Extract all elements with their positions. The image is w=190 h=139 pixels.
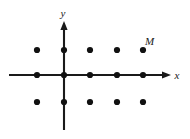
- lattice-dot: [34, 72, 40, 78]
- x-axis-arrowhead-icon: [162, 71, 171, 78]
- point-label-m: M: [144, 35, 155, 47]
- lattice-dot: [140, 99, 146, 105]
- lattice-dot: [34, 99, 40, 105]
- lattice-dot-m: [140, 47, 146, 53]
- figure-canvas: y x M: [0, 0, 190, 139]
- lattice-dot: [87, 99, 93, 105]
- x-axis-label: x: [174, 69, 180, 81]
- lattice-dot: [34, 47, 40, 53]
- coordinate-grid-figure: y x M: [0, 0, 190, 139]
- lattice-dot: [140, 72, 146, 78]
- lattice-dot-origin: [61, 72, 67, 78]
- lattice-dot: [114, 99, 120, 105]
- lattice-dot: [87, 47, 93, 53]
- y-axis-label: y: [60, 7, 66, 19]
- lattice-dot: [61, 47, 67, 53]
- y-axis-arrowhead-icon: [60, 21, 67, 30]
- lattice-dot: [61, 99, 67, 105]
- lattice-dot: [114, 47, 120, 53]
- lattice-dot: [114, 72, 120, 78]
- lattice-dot: [87, 72, 93, 78]
